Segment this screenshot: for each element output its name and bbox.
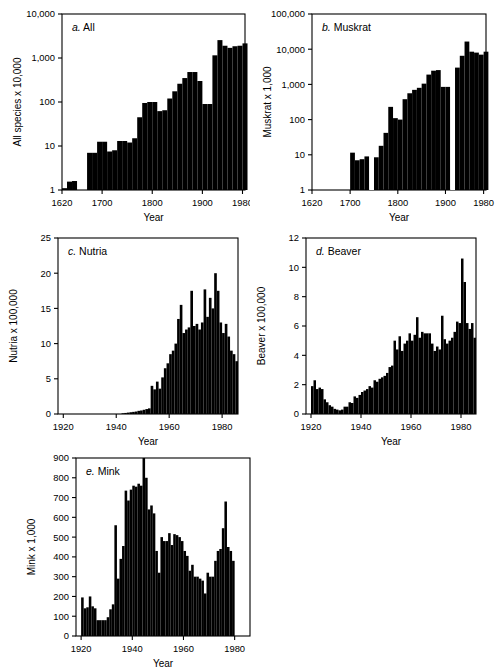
bar	[187, 72, 192, 190]
panel-label: e. Mink	[86, 465, 121, 477]
bar	[96, 620, 99, 636]
bar	[417, 88, 422, 190]
bar	[471, 323, 474, 414]
panel-label: c. Nutria	[68, 245, 107, 257]
bar	[326, 402, 329, 414]
x-tick-label: 1920	[53, 421, 74, 432]
bar	[127, 413, 130, 414]
bar	[359, 395, 362, 414]
y-tick-label: 1,000	[32, 52, 55, 63]
bar	[167, 99, 172, 190]
bar-series	[311, 259, 476, 414]
bar	[222, 528, 225, 636]
bar	[394, 341, 397, 414]
y-tick-label: 20	[41, 268, 51, 279]
bar	[99, 620, 102, 636]
x-tick-label: 1980	[451, 421, 472, 432]
x-tick-label: 1980	[224, 643, 245, 654]
bar	[319, 388, 322, 414]
figure-root: 1101001,00010,00016201700180019001980Yea…	[0, 0, 500, 668]
bar-series	[122, 273, 238, 414]
bar	[429, 333, 432, 414]
y-tick-label: 800	[53, 472, 69, 483]
bar	[224, 502, 227, 636]
bar	[374, 157, 379, 190]
bar	[107, 151, 112, 190]
bar	[469, 52, 474, 190]
bar	[209, 577, 212, 636]
y-tick-label: 500	[53, 532, 69, 543]
bar	[160, 537, 163, 636]
panel-b-svg: 1101001,00010,000100,0001620170018001900…	[250, 0, 500, 232]
bar	[180, 305, 183, 414]
bar	[122, 141, 127, 190]
bar	[404, 344, 407, 414]
data-gap	[450, 15, 455, 190]
bar	[194, 577, 197, 636]
y-tick-label: 100	[53, 611, 69, 622]
x-axis-title: Year	[153, 658, 174, 668]
bar	[169, 354, 172, 414]
bar	[201, 581, 204, 636]
bar	[206, 317, 209, 414]
bar	[193, 326, 196, 414]
bar	[151, 386, 154, 414]
bar	[207, 573, 210, 636]
x-tick-label: 1920	[301, 421, 322, 432]
bar	[321, 389, 324, 414]
bar	[214, 561, 217, 636]
bar	[233, 354, 236, 414]
bar	[227, 547, 230, 636]
bar	[445, 87, 450, 190]
panel-a-plot: 1101001,00010,00016201700180019001980Yea…	[12, 8, 250, 223]
bar	[444, 339, 447, 414]
bar	[232, 561, 235, 636]
bar	[354, 396, 357, 414]
panel-label-letter: c.	[68, 245, 76, 257]
panel-e-mink: 0100200300400500600700800900192019401960…	[14, 450, 264, 668]
bar	[212, 55, 217, 190]
bar	[84, 608, 87, 636]
bar	[242, 43, 247, 190]
bar	[143, 410, 146, 414]
bar	[455, 68, 460, 190]
bar	[222, 46, 227, 190]
y-tick-label: 400	[53, 551, 69, 562]
y-tick-label: 200	[53, 591, 69, 602]
bar	[167, 363, 170, 414]
panel-label-text: Mink	[95, 465, 121, 477]
bar	[336, 410, 339, 414]
y-tick-label: 100,000	[271, 8, 305, 19]
panel-label: a. All	[72, 21, 95, 33]
bar	[401, 351, 404, 414]
bar	[230, 551, 233, 636]
bar	[198, 330, 201, 414]
bar	[148, 408, 151, 414]
bar	[466, 323, 469, 414]
bar	[379, 146, 384, 190]
bar	[407, 93, 412, 190]
panel-d-beaver: 0246810121920194019601980YearBeaver x 10…	[250, 228, 500, 456]
bar	[174, 344, 177, 414]
bar	[135, 412, 138, 414]
bar	[122, 413, 125, 414]
bar	[92, 153, 97, 190]
bar	[209, 298, 212, 414]
y-tick-label: 12	[289, 232, 299, 243]
bar	[173, 534, 176, 636]
bar	[331, 407, 334, 414]
y-tick-label: 600	[53, 512, 69, 523]
bar	[426, 75, 431, 190]
bar	[431, 344, 434, 414]
bar	[314, 380, 317, 414]
y-tick-label: 0	[46, 408, 51, 419]
bar	[346, 407, 349, 414]
bar	[130, 490, 133, 636]
bar	[449, 341, 452, 414]
bar	[441, 87, 446, 190]
bar	[156, 382, 159, 414]
bar	[204, 289, 207, 414]
bar	[189, 571, 192, 636]
bar	[201, 322, 204, 414]
bar	[157, 111, 162, 190]
